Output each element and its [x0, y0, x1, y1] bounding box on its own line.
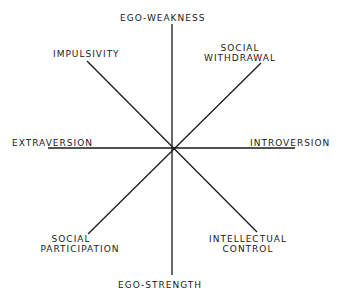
label-impulsivity: IMPULSIVITY	[53, 49, 120, 59]
label-ego-weakness: EGO-WEAKNESS	[120, 13, 205, 23]
label-intellectual-control: INTELLECTUAL CONTROL	[200, 234, 296, 254]
label-social-participation-line1: SOCIAL	[35, 234, 125, 244]
label-introversion: INTROVERSION	[250, 138, 330, 148]
label-social-withdrawal-line1: SOCIAL	[200, 43, 280, 53]
label-social-participation: SOCIAL PARTICIPATION	[35, 234, 125, 254]
label-intellectual-control-line2: CONTROL	[200, 244, 296, 254]
label-ego-strength: EGO-STRENGTH	[118, 280, 202, 290]
label-extraversion: EXTRAVERSION	[12, 138, 93, 148]
label-social-withdrawal-line2: WITHDRAWAL	[200, 53, 280, 63]
radial-axes-diagram	[0, 0, 343, 299]
label-social-participation-line2: PARTICIPATION	[35, 244, 125, 254]
label-intellectual-control-line1: INTELLECTUAL	[200, 234, 296, 244]
label-social-withdrawal: SOCIAL WITHDRAWAL	[200, 43, 280, 63]
